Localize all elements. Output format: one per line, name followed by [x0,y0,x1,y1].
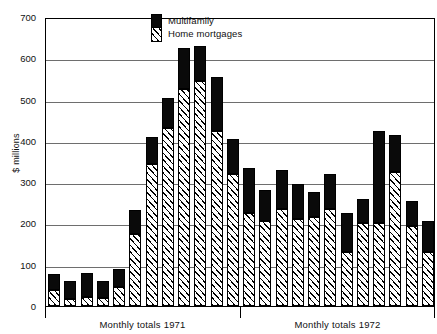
bar-segment-home-mortgages [292,219,304,306]
bar-segment-home-mortgages [357,223,369,306]
table-row [178,48,190,306]
y-tick-label-400: 400 [0,136,41,147]
plot-area [45,18,435,307]
bar-segment-multifamily [389,135,401,172]
legend-swatch-multifamily [152,15,161,28]
bar-segment-multifamily [113,269,125,288]
bar-segment-multifamily [357,199,369,224]
bar-segment-multifamily [422,221,434,252]
legend-swatch-home-mortgages [152,28,161,41]
table-row [194,46,206,306]
bar-series-container [46,19,434,306]
table-row [81,273,93,306]
bar-segment-multifamily [146,137,158,164]
bar-segment-home-mortgages [308,217,320,306]
bar-segment-multifamily [178,48,190,89]
table-row [64,281,76,306]
bar-segment-multifamily [97,281,109,298]
x-axis-tick [45,307,46,318]
bar-segment-home-mortgages [48,290,60,307]
table-row [357,199,369,306]
table-row [162,98,174,306]
y-tick-label-600: 600 [0,53,41,64]
table-row [308,192,320,306]
bar-segment-multifamily [81,273,93,297]
chart-figure: $ millions 0100200300400500600700 Multif… [0,0,437,334]
bar-segment-multifamily [64,281,76,298]
table-row [113,269,125,306]
table-row [389,135,401,306]
y-tick-label-100: 100 [0,260,41,271]
bar-segment-multifamily [292,184,304,219]
bar-segment-home-mortgages [194,81,206,306]
x-axis-group-label-0: Monthly totals 1971 [45,319,240,330]
table-row [341,213,353,306]
bar-segment-multifamily [243,168,255,213]
legend-swatch-column [151,14,162,42]
bar-segment-multifamily [129,210,141,234]
bar-segment-home-mortgages [243,213,255,306]
table-row [324,174,336,306]
x-axis-tick [240,307,241,318]
table-row [48,274,60,306]
bar-segment-multifamily [276,170,288,209]
table-row [97,281,109,306]
bar-segment-home-mortgages [97,298,109,306]
table-row [373,131,385,306]
y-tick-label-700: 700 [0,12,41,23]
bar-segment-multifamily [162,98,174,129]
x-axis-tick [434,307,435,318]
table-row [211,77,223,306]
y-tick-label-0: 0 [0,301,41,312]
y-tick-label-500: 500 [0,95,41,106]
table-row [259,190,271,306]
bar-segment-multifamily [227,139,239,174]
legend: Multifamily Home mortgages [151,14,242,42]
bar-segment-home-mortgages [422,252,434,306]
bar-segment-multifamily [324,174,336,209]
table-row [146,137,158,306]
bar-segment-home-mortgages [389,172,401,306]
table-row [129,210,141,306]
table-row [227,139,239,306]
bar-segment-multifamily [406,201,418,226]
bar-segment-multifamily [308,192,320,217]
table-row [422,221,434,306]
bar-segment-multifamily [341,213,353,252]
legend-label-multifamily: Multifamily [168,14,242,27]
x-axis: Monthly totals 1971Monthly totals 1972 [45,307,435,334]
table-row [292,184,304,306]
bar-segment-multifamily [211,77,223,131]
bar-segment-home-mortgages [341,252,353,306]
bar-segment-home-mortgages [211,131,223,306]
bar-segment-home-mortgages [81,297,93,306]
bar-segment-home-mortgages [259,221,271,306]
bar-segment-home-mortgages [324,209,336,306]
bar-segment-home-mortgages [129,234,141,306]
legend-label-column: Multifamily Home mortgages [168,14,242,40]
y-tick-label-200: 200 [0,218,41,229]
table-row [406,201,418,306]
bar-segment-home-mortgages [227,174,239,306]
bar-segment-multifamily [259,190,271,221]
bar-segment-multifamily [48,274,60,290]
bar-segment-home-mortgages [406,226,418,307]
bar-segment-home-mortgages [146,164,158,306]
bar-segment-multifamily [373,131,385,224]
bar-segment-home-mortgages [64,299,76,306]
bar-segment-home-mortgages [178,89,190,306]
y-tick-label-300: 300 [0,177,41,188]
bar-segment-home-mortgages [113,287,125,306]
bar-segment-multifamily [194,46,206,81]
bar-segment-home-mortgages [276,209,288,306]
table-row [276,170,288,306]
x-axis-group-label-1: Monthly totals 1972 [240,319,435,330]
table-row [243,168,255,306]
bar-segment-home-mortgages [162,128,174,306]
bar-segment-home-mortgages [373,223,385,306]
legend-label-home-mortgages: Home mortgages [168,27,242,40]
